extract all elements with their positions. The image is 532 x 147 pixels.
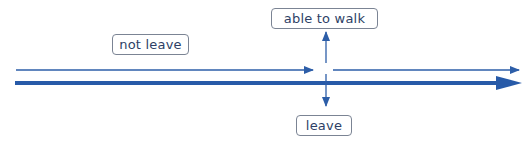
leave-label: leave	[296, 115, 352, 136]
able-to-walk-label: able to walk	[271, 8, 378, 29]
not-leave-label: not leave	[112, 34, 189, 55]
thick-arrowhead-icon	[496, 76, 522, 90]
timeline-diagram	[0, 0, 532, 147]
